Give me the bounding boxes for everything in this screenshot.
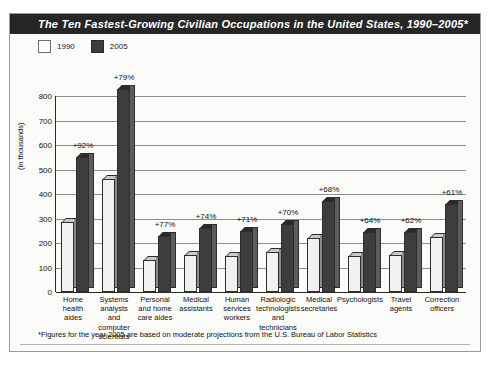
bar-group: +79%	[100, 96, 141, 292]
legend-swatch-2005	[91, 40, 104, 53]
bar-face-front	[307, 238, 320, 292]
bar-percent-label: +92%	[73, 141, 94, 150]
bar-face-front	[389, 255, 402, 292]
screenshot-root: The Ten Fastest-Growing Civilian Occupat…	[0, 0, 490, 365]
bar-percent-label: +68%	[319, 185, 340, 194]
bar-percent-label: +77%	[155, 220, 176, 229]
bar-group: +62%	[387, 96, 428, 292]
bar-2005	[76, 157, 89, 292]
bar-percent-label: +61%	[442, 188, 463, 197]
chart-title-bar: The Ten Fastest-Growing Civilian Occupat…	[10, 14, 480, 34]
bar-2005	[322, 201, 335, 292]
legend-item-1990: 1990	[38, 40, 75, 53]
y-axis-tick-label: 500	[18, 166, 52, 175]
bar-2005	[445, 204, 458, 292]
bar-1990	[102, 179, 115, 292]
bar-1990	[184, 255, 197, 292]
bar-1990	[307, 238, 320, 292]
bar-face-front	[102, 179, 115, 292]
bar-face-front	[322, 201, 335, 292]
bar-1990	[61, 222, 74, 292]
bar-1990	[389, 255, 402, 292]
bar-group: +77%	[141, 96, 182, 292]
bar-group: +92%	[59, 96, 100, 292]
bar-2005	[281, 224, 294, 292]
footnote-divider	[20, 344, 470, 345]
bar-face-front	[266, 252, 279, 292]
bar-face-side	[171, 232, 176, 288]
bar-2005	[117, 89, 130, 292]
y-axis-tick-label: 400	[18, 190, 52, 199]
y-axis-tick-label: 600	[18, 141, 52, 150]
bar-group: +71%	[223, 96, 264, 292]
category-label: Correction officers	[417, 295, 468, 313]
bar-face-side	[89, 153, 94, 288]
bar-face-front	[348, 256, 361, 292]
bar-group: +61%	[428, 96, 469, 292]
chart-legend: 1990 2005	[38, 40, 128, 53]
bar-group: +74%	[182, 96, 223, 292]
bar-face-front	[117, 89, 130, 292]
bar-face-side	[417, 228, 422, 288]
bar-percent-label: +79%	[114, 73, 135, 82]
bar-2005	[240, 231, 253, 292]
bar-face-side	[212, 224, 217, 288]
bar-face-front	[404, 232, 417, 292]
bar-1990	[225, 256, 238, 292]
bar-group: +70%	[264, 96, 305, 292]
bar-face-side	[458, 200, 463, 288]
legend-swatch-1990	[38, 40, 51, 53]
y-axis-tick-label: 800	[18, 92, 52, 101]
bar-face-side	[335, 197, 340, 288]
bar-face-front	[76, 157, 89, 292]
bar-2005	[158, 236, 171, 292]
bar-face-front	[240, 231, 253, 292]
bar-face-front	[199, 228, 212, 292]
y-axis-tick-label: 300	[18, 215, 52, 224]
bar-2005	[199, 228, 212, 292]
bar-face-front	[61, 222, 74, 292]
bar-2005	[404, 232, 417, 292]
chart-card: The Ten Fastest-Growing Civilian Occupat…	[9, 13, 481, 352]
category-labels: Home health aidesSystems analysts and co…	[56, 295, 468, 347]
bar-face-front	[225, 256, 238, 292]
bar-percent-label: +71%	[237, 215, 258, 224]
bar-2005	[363, 232, 376, 292]
legend-label-1990: 1990	[57, 42, 75, 51]
chart-title: The Ten Fastest-Growing Civilian Occupat…	[10, 18, 468, 30]
y-axis-tick-label: 700	[18, 117, 52, 126]
bar-face-front	[143, 260, 156, 292]
bar-face-front	[281, 224, 294, 292]
bar-face-side	[130, 85, 135, 288]
bar-group: +64%	[346, 96, 387, 292]
bar-1990	[430, 237, 443, 292]
legend-label-2005: 2005	[110, 42, 128, 51]
bar-face-side	[294, 220, 299, 288]
bar-percent-label: +62%	[401, 216, 422, 225]
y-axis-tick-label: 200	[18, 239, 52, 248]
bar-1990	[143, 260, 156, 292]
plot-area: (in thousands) 0100200300400500600700800…	[56, 96, 466, 292]
bar-percent-label: +64%	[360, 216, 381, 225]
bar-face-front	[430, 237, 443, 292]
bar-1990	[266, 252, 279, 292]
bar-face-side	[253, 227, 258, 288]
bar-face-side	[376, 228, 381, 288]
bar-percent-label: +70%	[278, 208, 299, 217]
bar-face-front	[363, 232, 376, 292]
bar-face-front	[158, 236, 171, 292]
chart-footnote: *Figures for the year 2005 are based on …	[38, 330, 377, 339]
y-axis-tick-label: 100	[18, 264, 52, 273]
bar-percent-label: +74%	[196, 212, 217, 221]
bar-1990	[348, 256, 361, 292]
bar-face-front	[184, 255, 197, 292]
bar-group: +68%	[305, 96, 346, 292]
x-axis-line	[56, 292, 466, 293]
bar-face-front	[445, 204, 458, 292]
legend-item-2005: 2005	[91, 40, 128, 53]
